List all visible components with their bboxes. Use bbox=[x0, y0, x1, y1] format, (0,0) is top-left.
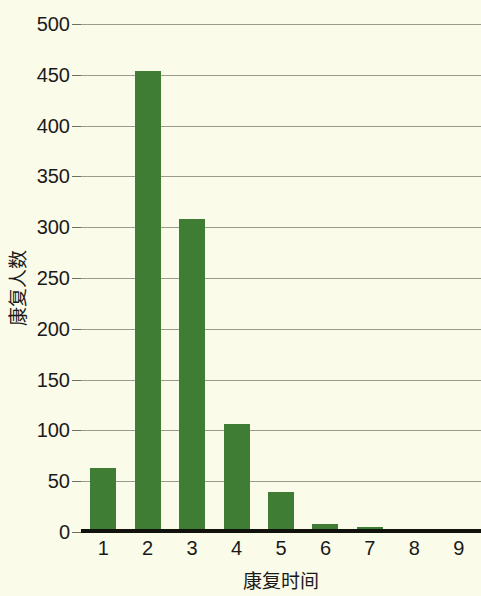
x-axis-tick-label: 7 bbox=[348, 538, 392, 558]
y-axis-tick bbox=[72, 75, 81, 76]
y-axis-tick bbox=[72, 24, 81, 25]
y-axis-tick bbox=[72, 532, 81, 533]
y-axis-tick-label: 450 bbox=[16, 65, 70, 85]
x-axis-tick-label: 6 bbox=[303, 538, 347, 558]
x-axis-tick-label: 4 bbox=[214, 538, 258, 558]
y-axis-tick bbox=[72, 278, 81, 279]
bars-layer bbox=[81, 24, 481, 532]
x-axis-tick-label: 5 bbox=[259, 538, 303, 558]
y-axis-tick bbox=[72, 126, 81, 127]
x-axis-tick-labels: 123456789 bbox=[81, 538, 481, 564]
bar bbox=[90, 468, 116, 532]
x-axis-title: 康复时间 bbox=[81, 566, 481, 593]
x-axis-line bbox=[81, 529, 481, 533]
y-axis-tick-label: 350 bbox=[16, 166, 70, 186]
bar bbox=[135, 71, 161, 532]
y-axis-tick-label: 200 bbox=[16, 319, 70, 339]
x-axis-tick-label: 1 bbox=[81, 538, 125, 558]
y-axis-tick bbox=[72, 380, 81, 381]
y-axis-tick-label: 500 bbox=[16, 14, 70, 34]
x-axis-tick-label: 3 bbox=[170, 538, 214, 558]
y-axis-tick-label: 100 bbox=[16, 420, 70, 440]
y-axis-tick-label: 400 bbox=[16, 116, 70, 136]
y-axis-tick bbox=[72, 176, 81, 177]
x-axis-tick-label: 2 bbox=[125, 538, 169, 558]
y-axis-tick-label: 0 bbox=[16, 522, 70, 542]
bar bbox=[224, 424, 250, 532]
y-axis-tick bbox=[72, 329, 81, 330]
x-axis-tick-label: 9 bbox=[437, 538, 481, 558]
y-axis-tick-label: 50 bbox=[16, 471, 70, 491]
y-axis-tick bbox=[72, 227, 81, 228]
y-axis-tick-label: 150 bbox=[16, 370, 70, 390]
y-axis-tick-label: 250 bbox=[16, 268, 70, 288]
x-axis-tick-label: 8 bbox=[392, 538, 436, 558]
y-axis-tick bbox=[72, 481, 81, 482]
bar bbox=[179, 219, 205, 532]
y-axis-tick bbox=[72, 430, 81, 431]
y-axis-tick-labels: 500450400350300250200150100500 bbox=[12, 24, 70, 532]
bar-chart: 康复人数 500450400350300250200150100500 1234… bbox=[0, 0, 481, 596]
bar bbox=[268, 492, 294, 532]
y-axis-tick-label: 300 bbox=[16, 217, 70, 237]
